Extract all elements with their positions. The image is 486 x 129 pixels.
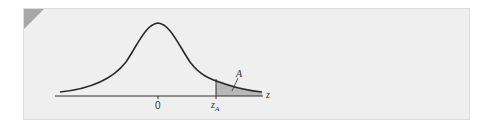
mean-label: 0	[155, 101, 161, 111]
critical-value-label: zA	[211, 100, 219, 113]
area-label: A	[236, 69, 242, 79]
normal-curve-diagram	[0, 0, 486, 129]
axis-label: z	[266, 90, 270, 100]
bell-curve	[60, 23, 262, 92]
